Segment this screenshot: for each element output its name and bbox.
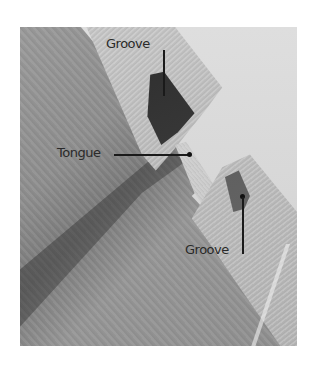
groove-top-label: Groove xyxy=(106,36,150,52)
groove-bottom-leader-line xyxy=(242,197,244,254)
joint-photo xyxy=(20,27,297,346)
tongue-label: Tongue xyxy=(57,145,100,161)
tongue-leader-line xyxy=(114,154,189,156)
tongue-leader-dot xyxy=(187,152,192,157)
groove-bottom-label: Groove xyxy=(185,242,229,258)
groove-top-leader-line xyxy=(163,50,165,96)
